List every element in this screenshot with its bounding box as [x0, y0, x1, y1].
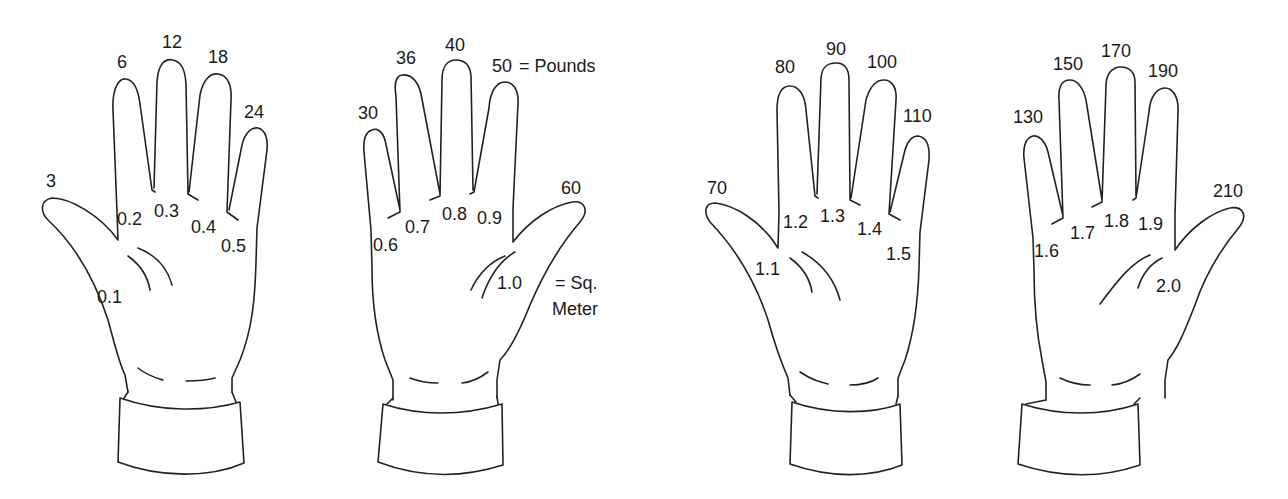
hand-3-illustration: [706, 63, 929, 475]
hand-4-pounds-pinky: 130: [1013, 108, 1043, 126]
hand-1-sqm-pinky: 0.5: [221, 237, 246, 255]
hand-1-pounds-ring: 18: [208, 48, 228, 66]
hand-3-sqm-ring: 1.4: [857, 220, 882, 238]
hand-4-sqm-pinky: 1.6: [1034, 242, 1059, 260]
hand-4-illustration: [1018, 67, 1244, 475]
hand-4-sqm-middle: 1.8: [1104, 212, 1129, 230]
hand-3-sqm-index: 1.2: [783, 213, 808, 231]
hand-4-pounds-ring: 150: [1053, 55, 1083, 73]
hand-3-sqm-thumb: 1.1: [755, 260, 780, 278]
hand-2-sqm-middle: 0.8: [442, 205, 467, 223]
hand-2-pounds-middle: 40: [445, 36, 465, 54]
hand-3-sqm-middle: 1.3: [820, 207, 845, 225]
hand-4-pounds-middle: 170: [1101, 42, 1131, 60]
hand-1-pounds-index: 6: [117, 53, 127, 71]
hand-4-pounds-thumb: 210: [1213, 182, 1243, 200]
hand-1-pounds-middle: 12: [162, 33, 182, 51]
hand-3-sqm-pinky: 1.5: [886, 245, 911, 263]
sq-meter-unit-label-line2: Meter: [552, 300, 598, 318]
hand-3-pounds-index: 80: [775, 58, 795, 76]
hand-2-pounds-ring: 36: [396, 49, 416, 67]
hand-3-pounds-thumb: 70: [707, 179, 727, 197]
hand-conversion-diagram: 3 6 12 18 24 0.1 0.2 0.3 0.4 0.5 30 36 4…: [0, 0, 1288, 499]
hand-4-sqm-ring: 1.7: [1070, 224, 1095, 242]
hand-4-sqm-index: 1.9: [1138, 215, 1163, 233]
hand-3-pounds-middle: 90: [826, 40, 846, 58]
hand-1-pounds-thumb: 3: [46, 172, 56, 190]
hand-3-pounds-pinky: 110: [903, 107, 932, 125]
hand-1-pounds-pinky: 24: [244, 103, 264, 121]
hand-4-sqm-thumb: 2.0: [1156, 277, 1181, 295]
hand-2-pounds-thumb: 60: [561, 179, 581, 197]
hand-2-pounds-pinky: 30: [358, 104, 378, 122]
hand-1-sqm-thumb: 0.1: [97, 288, 122, 306]
hand-1-illustration: [42, 60, 267, 474]
hand-2-sqm-thumb: 1.0: [497, 274, 522, 292]
hand-2-sqm-ring: 0.7: [405, 218, 430, 236]
hand-drawings: [0, 0, 1288, 499]
hand-2-illustration: [364, 60, 585, 474]
pounds-unit-label: = Pounds: [519, 57, 596, 75]
sq-meter-unit-label-line1: = Sq.: [555, 274, 598, 292]
hand-1-sqm-middle: 0.3: [154, 202, 179, 220]
hand-3-pounds-ring: 100: [867, 53, 897, 71]
hand-1-sqm-index: 0.2: [117, 210, 142, 228]
hand-2-sqm-index: 0.9: [477, 209, 502, 227]
hand-2-pounds-index: 50: [492, 57, 512, 75]
hand-4-pounds-index: 190: [1148, 62, 1178, 80]
hand-2-sqm-pinky: 0.6: [373, 236, 398, 254]
hand-1-sqm-ring: 0.4: [191, 218, 216, 236]
